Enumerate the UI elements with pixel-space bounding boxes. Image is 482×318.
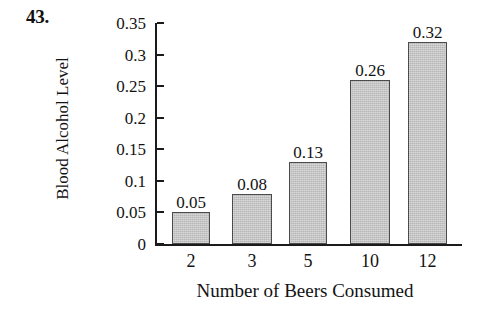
bar: 0.3212 — [408, 42, 447, 244]
y-tick-mark — [157, 180, 164, 182]
y-tick-label: 0.1 — [125, 172, 146, 189]
bar: 0.135 — [289, 162, 327, 244]
y-tick-mark — [157, 85, 164, 87]
y-tick-mark — [157, 243, 164, 245]
figure-container: 43. Blood Alcohol Level 00.050.10.150.20… — [0, 0, 482, 318]
bar-value-label: 0.05 — [176, 194, 206, 211]
x-tick-label: 10 — [361, 252, 379, 270]
y-tick-label: 0.3 — [125, 46, 146, 63]
y-tick-label: 0.35 — [116, 15, 146, 32]
x-axis-line — [155, 244, 462, 246]
bar-value-label: 0.32 — [413, 24, 443, 41]
y-tick-label: 0.05 — [116, 204, 146, 221]
y-tick-mark — [157, 117, 164, 119]
y-tick-mark — [157, 148, 164, 150]
y-axis-title: Blood Alcohol Level — [54, 36, 71, 222]
y-tick-mark — [157, 22, 164, 24]
y-tick-label: 0.25 — [116, 78, 146, 95]
y-tick-label: 0.15 — [116, 141, 146, 158]
y-tick-mark — [157, 54, 164, 56]
bar-value-label: 0.26 — [355, 62, 385, 79]
y-tick-mark — [157, 211, 164, 213]
x-tick-label: 2 — [187, 252, 196, 270]
y-tick-label: 0.2 — [125, 109, 146, 126]
bar-value-label: 0.08 — [237, 176, 267, 193]
plot-area: 00.050.10.150.20.250.30.35 0.0520.0830.1… — [155, 23, 462, 245]
bar-value-label: 0.13 — [293, 144, 323, 161]
bar: 0.2610 — [350, 80, 390, 244]
x-tick-label: 12 — [419, 252, 437, 270]
bar: 0.083 — [232, 194, 272, 245]
x-axis-title: Number of Beers Consumed — [142, 281, 468, 300]
y-tick-label: 0 — [138, 236, 147, 253]
bar: 0.052 — [172, 212, 210, 244]
x-tick-label: 5 — [304, 252, 313, 270]
problem-number: 43. — [26, 7, 49, 26]
x-tick-label: 3 — [248, 252, 257, 270]
